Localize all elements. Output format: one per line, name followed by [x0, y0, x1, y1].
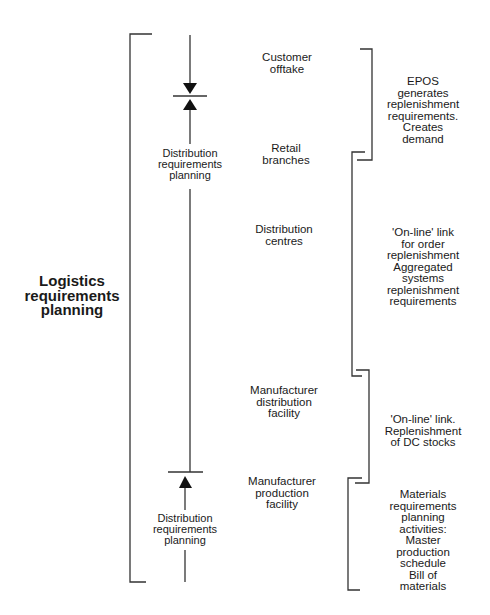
- bracket-online-dc: [355, 370, 369, 483]
- bracket-mrp: [348, 478, 362, 590]
- flow-label-lower: Distribution requirements planning: [153, 513, 217, 545]
- annotation-online-order: 'On-line' link for order replenishment A…: [387, 227, 459, 308]
- stage-manufacturer-production: Manufacturer production facility: [248, 476, 316, 511]
- logistics-bracket: [130, 34, 152, 582]
- arrow-up-icon: [179, 476, 192, 488]
- stage-distribution-centres: Distribution centres: [255, 224, 313, 247]
- stage-retail-branches: Retail branches: [262, 143, 309, 166]
- stage-manufacturer-distribution: Manufacturer distribution facility: [250, 385, 318, 420]
- diagram-title: Logistics requirements planning: [12, 274, 132, 318]
- flow-label-upper: Distribution requirements planning: [158, 148, 222, 180]
- annotation-mrp: Materials requirements planning activiti…: [389, 489, 456, 593]
- arrow-up-icon: [183, 99, 197, 110]
- stage-customer-offtake: Customer offtake: [262, 52, 312, 75]
- annotation-epos: EPOS generates replenishment requirement…: [387, 76, 459, 145]
- bracket-online-order: [352, 152, 365, 376]
- annotation-online-dc: 'On-line' link. Replenishment of DC stoc…: [385, 414, 462, 449]
- arrow-down-icon: [183, 83, 197, 94]
- bracket-epos: [357, 49, 372, 160]
